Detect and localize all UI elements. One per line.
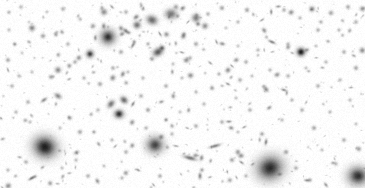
deep-field-sky-image xyxy=(0,0,365,188)
deep-field-image-viewport xyxy=(0,0,365,188)
